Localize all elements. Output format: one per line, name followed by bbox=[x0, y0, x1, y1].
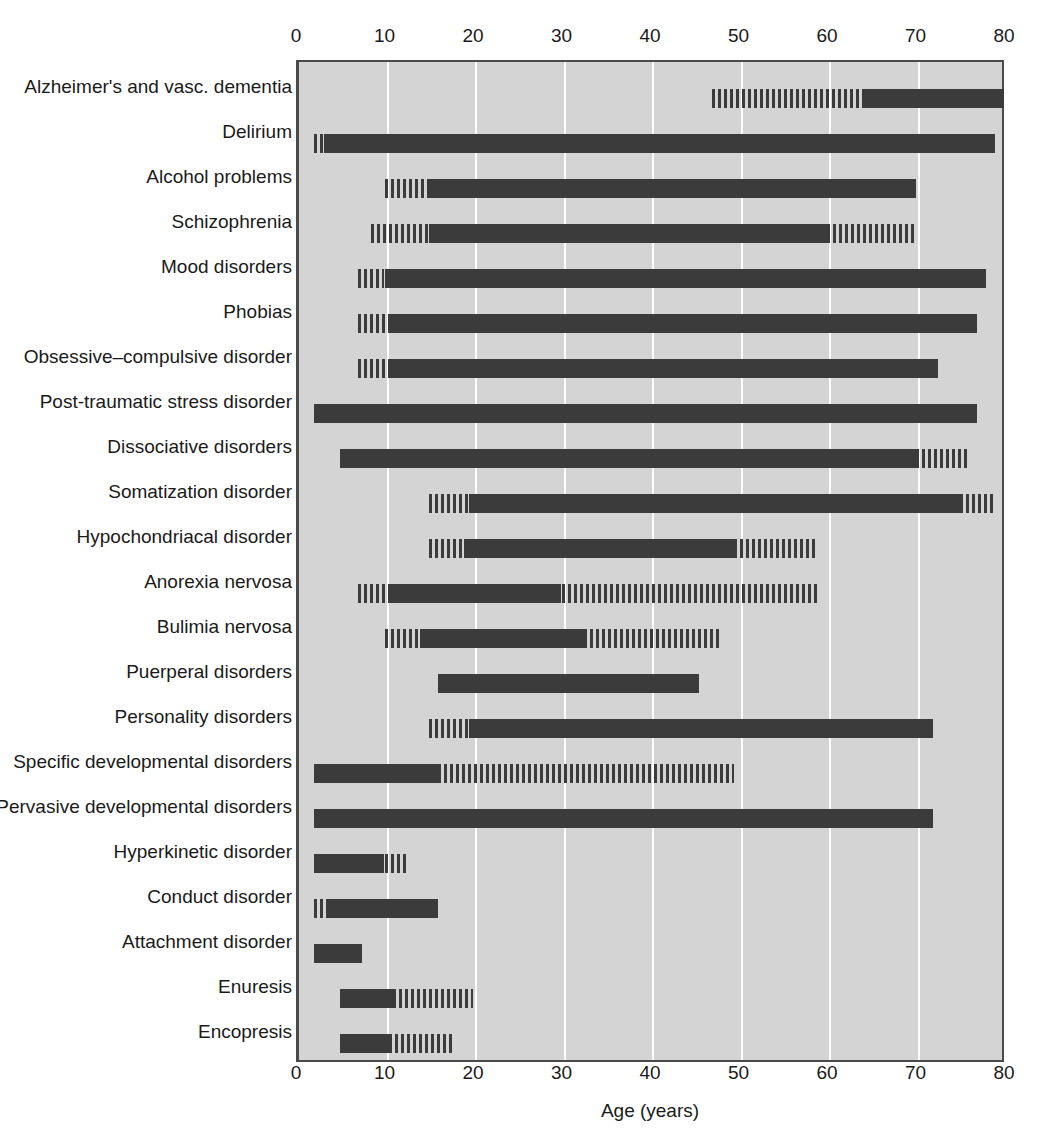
chart-row: Alcohol problems bbox=[0, 165, 1037, 210]
row-label-2: Alcohol problems bbox=[0, 165, 292, 189]
bottom-axis-tick-10: 10 bbox=[355, 1062, 415, 1084]
bar-segment-2-1-solid bbox=[429, 179, 916, 198]
row-label-10: Hypochondriacal disorder bbox=[0, 525, 292, 549]
bar-track-20 bbox=[296, 975, 1004, 1020]
bar-segment-9-1-solid bbox=[469, 494, 960, 513]
bar-track-6 bbox=[296, 345, 1004, 390]
chart-row: Pervasive developmental disorders bbox=[0, 795, 1037, 840]
bar-segment-12-2-hatch bbox=[584, 629, 721, 648]
bar-segment-19-0-solid bbox=[314, 944, 363, 963]
bar-segment-7-0-solid bbox=[314, 404, 978, 423]
top-axis-tick-70: 70 bbox=[886, 25, 946, 47]
bar-segment-3-1-solid bbox=[429, 224, 827, 243]
bar-segment-21-0-solid bbox=[340, 1034, 389, 1053]
bar-segment-21-1-hatch bbox=[389, 1034, 455, 1053]
bar-track-17 bbox=[296, 840, 1004, 885]
row-label-9: Somatization disorder bbox=[0, 480, 292, 504]
bottom-axis-tick-50: 50 bbox=[709, 1062, 769, 1084]
chart-row: Anorexia nervosa bbox=[0, 570, 1037, 615]
bar-segment-4-0-hatch bbox=[358, 269, 385, 288]
top-axis-tick-50: 50 bbox=[709, 25, 769, 47]
bar-segment-1-0-hatch bbox=[314, 134, 325, 153]
row-label-15: Specific developmental disorders bbox=[0, 750, 292, 774]
bar-segment-6-0-hatch bbox=[358, 359, 389, 378]
chart-row: Delirium bbox=[0, 120, 1037, 165]
row-label-17: Hyperkinetic disorder bbox=[0, 840, 292, 864]
bar-segment-11-2-hatch bbox=[562, 584, 819, 603]
bar-track-0 bbox=[296, 75, 1004, 120]
bar-track-7 bbox=[296, 390, 1004, 435]
bar-track-12 bbox=[296, 615, 1004, 660]
top-axis-tick-60: 60 bbox=[797, 25, 857, 47]
bar-segment-10-2-hatch bbox=[734, 539, 818, 558]
row-label-5: Phobias bbox=[0, 300, 292, 324]
row-label-14: Personality disorders bbox=[0, 705, 292, 729]
bottom-axis: 01020304050607080 bbox=[0, 1062, 1037, 1088]
top-axis-tick-10: 10 bbox=[355, 25, 415, 47]
bottom-axis-tick-60: 60 bbox=[797, 1062, 857, 1084]
chart-row: Bulimia nervosa bbox=[0, 615, 1037, 660]
bar-segment-3-0-hatch bbox=[371, 224, 429, 243]
chart-row: Hyperkinetic disorder bbox=[0, 840, 1037, 885]
bar-segment-5-1-solid bbox=[389, 314, 978, 333]
bottom-axis-tick-0: 0 bbox=[266, 1062, 326, 1084]
bar-segment-20-1-hatch bbox=[393, 989, 473, 1008]
bar-track-18 bbox=[296, 885, 1004, 930]
bar-segment-0-0-hatch bbox=[712, 89, 862, 108]
bar-track-1 bbox=[296, 120, 1004, 165]
row-label-13: Puerperal disorders bbox=[0, 660, 292, 684]
bar-track-16 bbox=[296, 795, 1004, 840]
bar-segment-8-0-solid bbox=[340, 449, 915, 468]
top-axis-tick-40: 40 bbox=[620, 25, 680, 47]
bar-segment-10-1-solid bbox=[464, 539, 734, 558]
bar-segment-5-0-hatch bbox=[358, 314, 389, 333]
bar-segment-4-1-solid bbox=[385, 269, 987, 288]
chart-row: Enuresis bbox=[0, 975, 1037, 1020]
top-axis-tick-30: 30 bbox=[532, 25, 592, 47]
row-label-18: Conduct disorder bbox=[0, 885, 292, 909]
row-label-16: Pervasive developmental disorders bbox=[0, 795, 292, 819]
chart-row: Schizophrenia bbox=[0, 210, 1037, 255]
chart-row: Post-traumatic stress disorder bbox=[0, 390, 1037, 435]
bar-segment-17-0-solid bbox=[314, 854, 385, 873]
bottom-axis-tick-20: 20 bbox=[443, 1062, 503, 1084]
bar-track-9 bbox=[296, 480, 1004, 525]
chart-row: Attachment disorder bbox=[0, 930, 1037, 975]
row-label-12: Bulimia nervosa bbox=[0, 615, 292, 639]
bar-track-19 bbox=[296, 930, 1004, 975]
bar-track-5 bbox=[296, 300, 1004, 345]
bar-track-13 bbox=[296, 660, 1004, 705]
row-label-1: Delirium bbox=[0, 120, 292, 144]
bar-segment-9-2-hatch bbox=[960, 494, 995, 513]
bar-segment-6-1-solid bbox=[389, 359, 938, 378]
bar-segment-15-1-hatch bbox=[438, 764, 734, 783]
bar-track-21 bbox=[296, 1020, 1004, 1065]
chart-row: Phobias bbox=[0, 300, 1037, 345]
chart-row: Specific developmental disorders bbox=[0, 750, 1037, 795]
bar-segment-9-0-hatch bbox=[429, 494, 469, 513]
top-axis-tick-20: 20 bbox=[443, 25, 503, 47]
chart-row: Personality disorders bbox=[0, 705, 1037, 750]
chart-row: Obsessive–compulsive disorder bbox=[0, 345, 1037, 390]
row-label-20: Enuresis bbox=[0, 975, 292, 999]
row-label-21: Encopresis bbox=[0, 1020, 292, 1044]
chart-row: Conduct disorder bbox=[0, 885, 1037, 930]
bar-segment-1-1-solid bbox=[324, 134, 995, 153]
top-axis-tick-0: 0 bbox=[266, 25, 326, 47]
bar-segment-11-1-solid bbox=[389, 584, 562, 603]
bar-track-3 bbox=[296, 210, 1004, 255]
bar-segment-14-1-solid bbox=[469, 719, 934, 738]
age-range-bar-chart: 01020304050607080 Alzheimer's and vasc. … bbox=[0, 0, 1037, 1147]
row-label-19: Attachment disorder bbox=[0, 930, 292, 954]
bottom-axis-tick-30: 30 bbox=[532, 1062, 592, 1084]
bar-segment-3-2-hatch bbox=[827, 224, 916, 243]
bar-segment-15-0-solid bbox=[314, 764, 438, 783]
bar-segment-11-0-hatch bbox=[358, 584, 389, 603]
bottom-axis-tick-40: 40 bbox=[620, 1062, 680, 1084]
row-label-11: Anorexia nervosa bbox=[0, 570, 292, 594]
row-label-8: Dissociative disorders bbox=[0, 435, 292, 459]
bottom-axis-tick-70: 70 bbox=[886, 1062, 946, 1084]
row-label-6: Obsessive–compulsive disorder bbox=[0, 345, 292, 369]
bar-track-11 bbox=[296, 570, 1004, 615]
bar-segment-20-0-solid bbox=[340, 989, 393, 1008]
